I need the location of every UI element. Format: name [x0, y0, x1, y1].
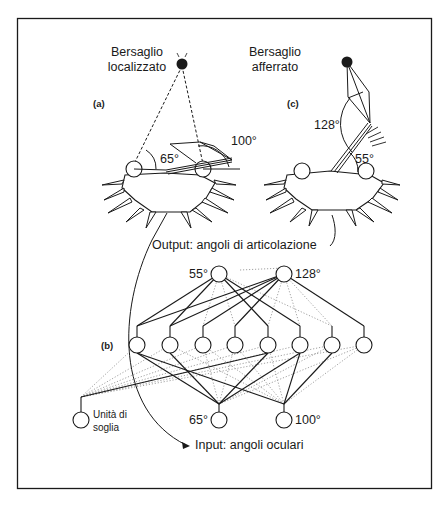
crab-arm-folded [134, 142, 240, 174]
output-node-128-label: 128° [295, 267, 321, 281]
angle-55-label: 55° [355, 152, 374, 166]
threshold-unit-node [73, 412, 89, 428]
target-located-line2: localizzato [108, 60, 166, 74]
angle-128-label: 128° [314, 118, 340, 132]
crab-neural-network-diagram: Bersaglio localizzato (a) [0, 0, 448, 505]
input-node-65-label: 65° [189, 413, 208, 427]
angle-100-label: 100° [231, 134, 257, 148]
angle-arc-128 [340, 98, 352, 152]
target-grasped-line2: afferrato [252, 60, 298, 74]
hidden-node [129, 337, 145, 353]
input-node-100 [276, 412, 292, 428]
panel-b-label: (b) [101, 340, 113, 351]
dotted-connections [81, 268, 364, 404]
hidden-node-stems [137, 326, 364, 337]
hidden-node [227, 337, 243, 353]
angle-arc-65 [146, 150, 156, 169]
solid-connections-output [137, 274, 364, 326]
angle-65-label: 65° [160, 152, 179, 166]
threshold-unit-label-line1: Unità di [93, 409, 127, 420]
output-node-128 [276, 266, 292, 282]
crab-eye-left-c [294, 163, 310, 179]
input-node-100-label: 100° [295, 413, 321, 427]
hidden-node [324, 337, 340, 353]
panel-c: Bersaglio afferrato (c) [249, 45, 400, 226]
input-node-65 [211, 412, 227, 428]
output-node-55-label: 55° [189, 267, 208, 281]
crab-body-a [122, 173, 215, 212]
output-pointer-line [152, 213, 167, 240]
hidden-node [260, 337, 276, 353]
output-caption: Output: angoli di articolazione [152, 238, 317, 252]
target-grasped-line1: Bersaglio [249, 45, 301, 59]
panel-c-label: (c) [287, 98, 299, 109]
panel-b: (b) Output: angoli di articolazione Inpu… [73, 213, 372, 452]
output-pointer-curve [330, 215, 335, 246]
input-caption: Input: angoli oculari [195, 438, 303, 452]
hidden-node [195, 337, 211, 353]
hidden-node [292, 337, 308, 353]
arrowhead-icon [182, 442, 190, 449]
panel-a: Bersaglio localizzato (a) [93, 45, 257, 228]
hidden-node [162, 337, 178, 353]
sight-line-right [182, 66, 203, 164]
hidden-layer [129, 337, 372, 353]
threshold-unit-label-line2: soglia [93, 422, 120, 433]
target-located-line1: Bersaglio [111, 45, 163, 59]
panel-a-label: (a) [93, 98, 105, 109]
sight-line-left [134, 66, 182, 164]
output-node-55 [211, 266, 227, 282]
hidden-node [356, 337, 372, 353]
